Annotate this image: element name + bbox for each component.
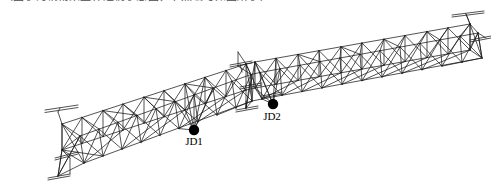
left-end-support bbox=[45, 105, 84, 180]
right-segment-far-face bbox=[255, 24, 470, 88]
truss-drawing: JD1 JD2 bbox=[0, 0, 491, 188]
right-segment-near-face bbox=[260, 33, 482, 99]
truss-members bbox=[45, 11, 491, 180]
node-marker-jd1 bbox=[189, 125, 199, 135]
node-marker-jd2 bbox=[268, 99, 278, 109]
node-label-jd2: JD2 bbox=[263, 110, 281, 122]
node-label-jd1: JD1 bbox=[185, 135, 203, 147]
truss-figure-root: （图示为钢桁架整体透视示意图，节点编号如图所示） bbox=[0, 0, 491, 188]
